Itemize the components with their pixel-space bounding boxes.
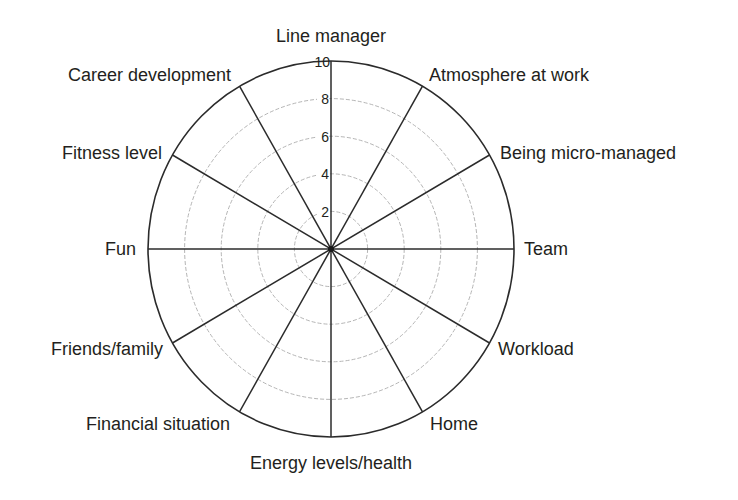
radial-tick-labels: 2 4 6 8 10 <box>314 54 330 220</box>
tick-label-10: 10 <box>314 54 330 70</box>
tick-label-4: 4 <box>321 166 329 182</box>
center-dot <box>328 246 334 252</box>
label-fun: Fun <box>105 239 136 259</box>
label-career-development: Career development <box>68 65 231 85</box>
label-line-manager: Line manager <box>276 26 386 46</box>
tick-label-6: 6 <box>321 129 329 145</box>
label-workload: Workload <box>498 339 574 359</box>
tick-label-8: 8 <box>321 91 329 107</box>
label-home: Home <box>430 414 478 434</box>
label-financial-situation: Financial situation <box>86 414 230 434</box>
label-team: Team <box>524 239 568 259</box>
wheel-of-life-chart: 2 4 6 8 10 Line manager Atmosphere at wo… <box>0 0 738 500</box>
label-friends-family: Friends/family <box>51 339 163 359</box>
label-atmosphere-at-work: Atmosphere at work <box>429 65 590 85</box>
label-fitness-level: Fitness level <box>62 143 162 163</box>
tick-label-2: 2 <box>321 204 329 220</box>
label-being-micro-managed: Being micro-managed <box>500 143 676 163</box>
label-energy-levels-health: Energy levels/health <box>250 453 412 473</box>
